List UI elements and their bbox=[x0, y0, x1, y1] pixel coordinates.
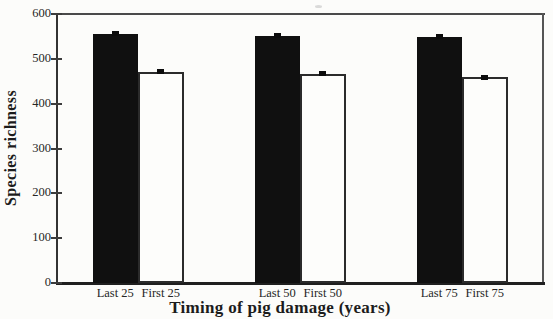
y-tick-200 bbox=[51, 192, 62, 194]
y-tick-600 bbox=[51, 13, 62, 15]
x-tick-label-first-75: First 75 bbox=[445, 286, 525, 301]
x-axis-title: Timing of pig damage (years) bbox=[37, 298, 523, 318]
y-tick-label-400: 400 bbox=[0, 95, 51, 111]
bar-first-75 bbox=[462, 77, 508, 283]
bar-first-25 bbox=[138, 72, 184, 283]
y-tick-label-600: 600 bbox=[0, 5, 51, 21]
error-bar-first-50 bbox=[319, 71, 326, 76]
error-bar-last-25 bbox=[112, 31, 119, 36]
bar-last-75 bbox=[417, 37, 463, 283]
error-bar-first-25 bbox=[157, 69, 164, 74]
y-tick-label-0: 0 bbox=[0, 274, 51, 290]
y-tick-500 bbox=[51, 58, 62, 60]
bar-last-25 bbox=[93, 34, 139, 283]
error-bar-first-75 bbox=[481, 75, 488, 80]
plot-frame-right bbox=[542, 13, 544, 284]
y-tick-0 bbox=[51, 282, 62, 284]
y-tick-400 bbox=[51, 103, 62, 105]
scan-artifact-speck bbox=[315, 5, 322, 8]
y-tick-100 bbox=[51, 237, 62, 239]
error-bar-last-75 bbox=[436, 34, 443, 39]
error-bar-last-50 bbox=[274, 33, 281, 38]
y-tick-label-200: 200 bbox=[0, 184, 51, 200]
x-tick-label-first-25: First 25 bbox=[121, 286, 201, 301]
y-tick-300 bbox=[51, 148, 62, 150]
y-tick-label-300: 300 bbox=[0, 140, 51, 156]
y-tick-label-100: 100 bbox=[0, 229, 51, 245]
bar-last-50 bbox=[255, 36, 301, 283]
plot-frame-top bbox=[56, 13, 545, 15]
bar-first-50 bbox=[300, 74, 346, 283]
y-tick-label-500: 500 bbox=[0, 50, 51, 66]
bar-chart-figure: Species richness Timing of pig damage (y… bbox=[0, 0, 553, 319]
x-tick-label-first-50: First 50 bbox=[283, 286, 363, 301]
